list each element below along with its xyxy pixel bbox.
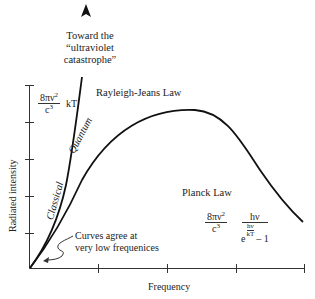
planck-exp-den: kT — [246, 231, 254, 238]
planck-fraction: hν e hν kT – 1 — [239, 211, 271, 244]
y-axis-label: Radiated intensity — [7, 160, 19, 233]
rayleigh-jeans-label: Rayleigh-Jeans Law — [96, 87, 181, 99]
planck-exponent: hν kT — [246, 223, 254, 238]
uv-catastrophe-note: Toward the “ultraviolet catastrophe” — [58, 30, 122, 66]
planck-den-exponent: 3 — [217, 222, 221, 230]
note-line-1: Toward the — [58, 30, 122, 42]
rj-num-exponent: 2 — [55, 91, 59, 99]
planck-e: e — [241, 233, 245, 244]
note-line-3: catastrophe” — [58, 54, 122, 66]
planck-hv: hν — [250, 211, 260, 222]
agreement-note: Curves agree at very low frequenices — [75, 230, 159, 254]
planck-num-exponent: 2 — [222, 210, 226, 218]
planck-numerator: 8πν — [207, 211, 222, 222]
rj-numerator: 8πν — [40, 92, 55, 103]
up-arrow-icon — [81, 4, 91, 17]
radiation-chart — [0, 0, 315, 299]
rj-fraction: 8πν2 c3 — [38, 92, 60, 115]
planck-curve — [30, 110, 303, 268]
planck-label: Planck Law — [182, 187, 232, 199]
pointer-arrowhead-icon — [43, 257, 49, 263]
agree-line-2: very low frequenices — [75, 242, 159, 254]
rj-kt: kT — [66, 98, 77, 110]
agree-line-1: Curves agree at — [75, 230, 159, 242]
x-axis-label: Frequency — [148, 281, 190, 293]
rj-den-exponent: 3 — [50, 103, 54, 111]
planck-minus-one: – 1 — [256, 233, 269, 244]
note-line-2: “ultraviolet — [58, 42, 122, 54]
planck-prefactor: 8πν2 c3 — [205, 211, 227, 234]
